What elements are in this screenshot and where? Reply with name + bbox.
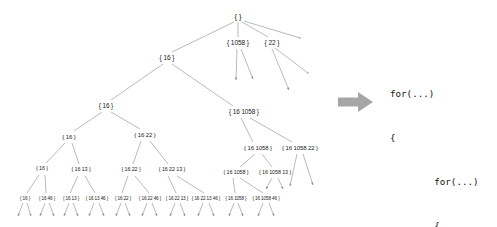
tree-node: { 16 } xyxy=(20,197,30,202)
tree-node: { 16 22 } xyxy=(121,167,140,172)
code-line: for(...) xyxy=(390,87,495,102)
code-line: for(...) xyxy=(390,175,495,190)
tree-node: { 16 46 } xyxy=(39,197,55,202)
tree-node: { 16 22 13 } xyxy=(159,167,185,172)
tree-node: { 1058 } xyxy=(227,40,249,47)
tree-node: { } xyxy=(235,13,242,21)
tree-node: { 16 13 46 } xyxy=(86,197,108,202)
tree-node: { 16 } xyxy=(99,103,113,109)
tree-node: { 16 } xyxy=(62,134,75,140)
tree-node: { 16 13 } xyxy=(63,197,79,202)
transform-arrow-icon xyxy=(338,91,374,113)
tree-node: { 16 } xyxy=(36,166,48,171)
tree-edges xyxy=(18,21,313,216)
tree-node: { 16 1058 13 } xyxy=(259,170,291,175)
code-snippet: for(...) { for(...) { ... } } xyxy=(390,58,495,227)
code-line: { xyxy=(390,219,495,227)
tree-node: { 16 1058 } xyxy=(224,170,249,175)
tree-node: { 16 1058 } xyxy=(229,109,259,115)
tree-node: { 16 22 } xyxy=(134,132,155,138)
figure-root: { } { 16 } { 1058 } { 22 } { 16 } { 16 1… xyxy=(0,0,497,227)
tree-node: { 16 13 } xyxy=(71,167,90,172)
tree-node: { 16 } xyxy=(160,55,175,62)
tree-node: { 16 22 } xyxy=(115,197,131,202)
tree-node: { 16 22 13 } xyxy=(166,197,188,202)
tree-node: { 16 22 13 46 } xyxy=(192,197,220,202)
tree-node: { 22 } xyxy=(265,40,280,47)
code-line: { xyxy=(390,131,495,146)
tree-node: { 16 22 46 } xyxy=(139,197,161,202)
tree-node: { 16 1058 22 } xyxy=(282,145,318,151)
tree-node: { 16 1058 } xyxy=(244,145,272,151)
tree-node: { 16 1058 } xyxy=(225,197,246,202)
tree-node: { 16 1058 46 } xyxy=(252,197,279,202)
